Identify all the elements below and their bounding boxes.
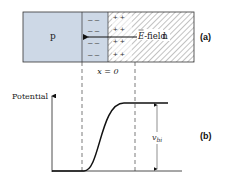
e-field-label: E-field	[137, 31, 167, 41]
svg-text:– –: – –	[88, 38, 100, 47]
svg-text:+ +: + +	[113, 50, 125, 59]
p-label: p	[50, 31, 56, 41]
svg-text:– –: – –	[88, 50, 100, 59]
svg-text:+ +: + +	[113, 37, 125, 46]
pn-junction-diagram: p n – – – – – – – – + + + + + + + + E-fi…	[0, 0, 227, 181]
svg-text:+ +: + +	[113, 25, 125, 34]
svg-text:– –: – –	[88, 26, 100, 35]
junction-position-label: x = 0	[97, 67, 118, 76]
svg-text:+ +: + +	[113, 13, 125, 22]
svg-text:– –: – –	[88, 15, 100, 24]
panel-b-label: (b)	[200, 131, 212, 141]
y-axis-label: Potential	[12, 92, 49, 101]
panel-a-label: (a)	[200, 32, 211, 42]
